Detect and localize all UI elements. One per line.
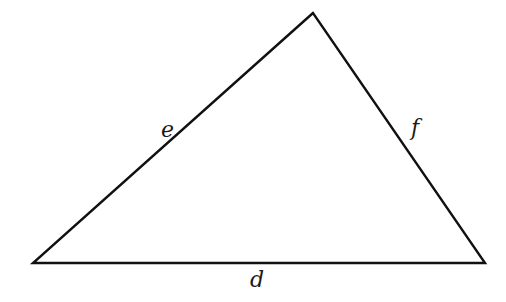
side-label-d: d xyxy=(250,267,264,292)
side-label-f: f xyxy=(409,115,423,140)
triangle-diagram: e f d xyxy=(0,0,506,302)
side-label-e: e xyxy=(161,117,174,142)
